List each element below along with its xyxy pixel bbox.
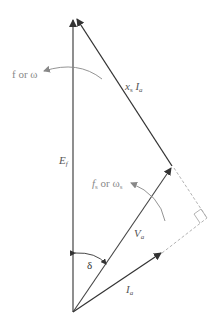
ef-label: Ef (59, 155, 68, 168)
ia-label: Ia (126, 284, 133, 297)
rotor-frequency-label: f or ω (12, 69, 38, 80)
va-label: Va (134, 228, 144, 241)
phasor-diagram (0, 0, 217, 327)
stator-frequency-label: fs or ωs (92, 178, 122, 191)
delta-label: δ (87, 260, 92, 271)
dashed-ia-extension (162, 218, 207, 253)
right-angle-marker (194, 209, 207, 223)
xs-ia-label: xs Ia (125, 81, 143, 94)
